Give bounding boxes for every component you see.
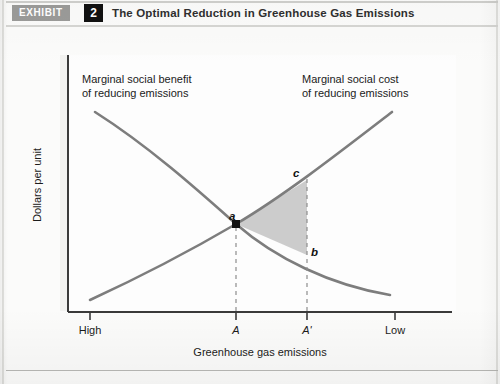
- header-rule-top: [6, 1, 498, 3]
- msc-annotation-line2: of reducing emissions: [302, 87, 408, 101]
- chart-svg: [0, 27, 500, 360]
- y-axis-label: Dollars per unit: [31, 130, 43, 240]
- figure-panel: Marginal social benefit of reducing emis…: [0, 27, 500, 360]
- x-axis-label: Greenhouse gas emissions: [150, 346, 370, 358]
- x-tick-label-a: A: [224, 324, 248, 336]
- x-tick-label-high: High: [68, 324, 112, 336]
- page-canvas: EXHIBIT 2 The Optimal Reduction in Green…: [0, 0, 500, 384]
- msb-annotation-line1: Marginal social benefit: [82, 73, 191, 87]
- msc-annotation-line1: Marginal social cost: [302, 73, 408, 87]
- exhibit-header: EXHIBIT 2 The Optimal Reduction in Green…: [0, 0, 500, 26]
- footer-rule: [6, 370, 498, 371]
- point-label-c: c: [293, 167, 299, 179]
- msb-annotation: Marginal social benefit of reducing emis…: [82, 73, 191, 100]
- point-label-a: a: [229, 210, 235, 222]
- exhibit-tag: EXHIBIT: [12, 5, 70, 21]
- exhibit-number-badge: 2: [84, 4, 103, 22]
- msb-annotation-line2: of reducing emissions: [82, 87, 191, 101]
- point-label-b: b: [311, 246, 318, 258]
- x-tick-label-a-prime: A': [294, 324, 320, 336]
- msb-curve: [95, 112, 390, 295]
- msc-annotation: Marginal social cost of reducing emissio…: [302, 73, 408, 100]
- exhibit-title: The Optimal Reduction in Greenhouse Gas …: [112, 5, 415, 21]
- x-tick-label-low: Low: [374, 324, 416, 336]
